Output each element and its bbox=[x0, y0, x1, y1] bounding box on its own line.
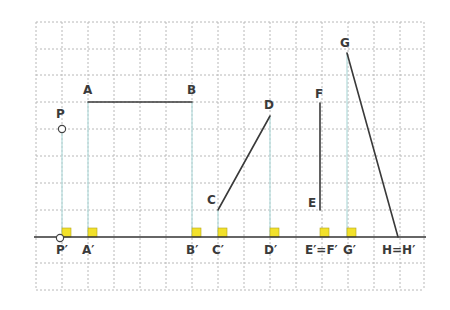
label-A-prime: A′ bbox=[82, 244, 94, 256]
label-G-prime: G′ bbox=[343, 244, 356, 256]
marker-D bbox=[270, 228, 279, 237]
label-F: F bbox=[315, 88, 323, 100]
right-angle-markers bbox=[62, 228, 356, 237]
marker-B bbox=[192, 228, 201, 237]
label-A: A bbox=[83, 84, 92, 96]
label-D: D bbox=[264, 99, 274, 111]
point-P-circle bbox=[58, 125, 65, 132]
label-P-prime: P′ bbox=[56, 244, 68, 256]
label-B: B bbox=[187, 84, 196, 96]
label-HH-prime: H=H′ bbox=[382, 244, 415, 256]
label-C-prime: C′ bbox=[212, 244, 224, 256]
marker-G bbox=[347, 228, 356, 237]
label-P: P bbox=[56, 108, 65, 120]
segment-GH bbox=[347, 53, 398, 237]
marker-C bbox=[218, 228, 227, 237]
label-G: G bbox=[340, 37, 350, 49]
label-C: C bbox=[207, 194, 216, 206]
label-EF-prime: E′=F′ bbox=[305, 244, 338, 256]
label-D-prime: D′ bbox=[264, 244, 277, 256]
point-P-prime-circle bbox=[56, 234, 63, 241]
segments bbox=[88, 53, 398, 237]
label-B-prime: B′ bbox=[186, 244, 198, 256]
projection-lines bbox=[62, 53, 347, 237]
marker-EF bbox=[320, 228, 329, 237]
marker-A bbox=[88, 228, 97, 237]
diagram-canvas bbox=[0, 0, 450, 310]
projection-diagram: P A B C D E F G P′ A′ B′ C′ D′ E′=F′ G′ … bbox=[0, 0, 450, 310]
label-E: E bbox=[308, 197, 316, 209]
